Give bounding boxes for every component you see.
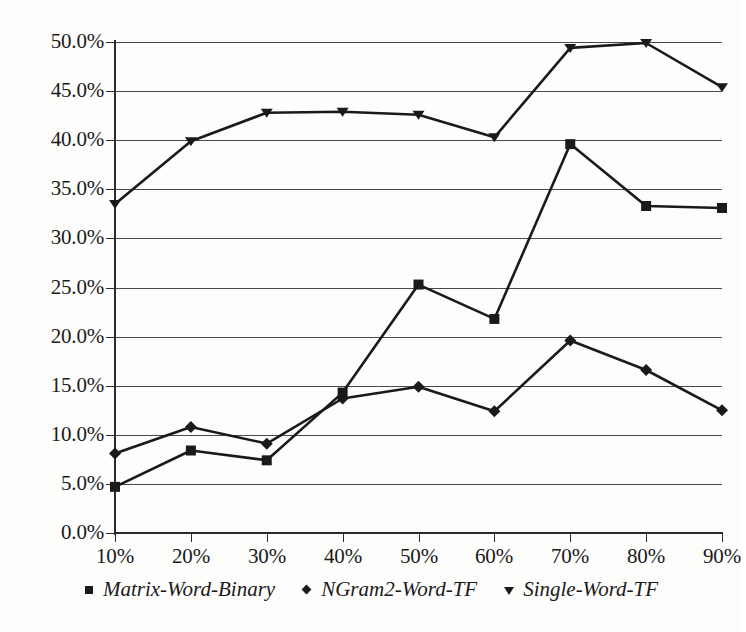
data-point-marker xyxy=(186,446,196,456)
data-point-marker xyxy=(109,200,121,209)
data-point-marker xyxy=(641,201,651,211)
legend-item: Single-Word-TF xyxy=(503,578,658,600)
diamond-icon xyxy=(301,583,313,595)
series-line xyxy=(115,144,722,487)
series-matrix-word-binary xyxy=(110,139,727,492)
square-icon xyxy=(83,583,95,595)
legend-item: NGram2-Word-TF xyxy=(301,578,477,600)
data-point-marker xyxy=(716,404,728,416)
data-point-marker xyxy=(488,133,500,142)
legend-item-label: NGram2-Word-TF xyxy=(321,578,477,600)
data-point-marker xyxy=(716,83,728,92)
data-point-marker xyxy=(109,447,121,459)
data-point-marker xyxy=(110,482,120,492)
series-line xyxy=(115,43,722,204)
series-single-word-tf xyxy=(109,39,728,209)
data-point-marker xyxy=(413,381,425,393)
legend-item-label: Single-Word-TF xyxy=(523,578,658,600)
legend-item: Matrix-Word-Binary xyxy=(83,578,275,600)
data-point-marker xyxy=(717,203,727,213)
series-line xyxy=(115,341,722,454)
data-point-marker xyxy=(640,364,652,376)
data-point-marker xyxy=(261,438,273,450)
data-point-marker xyxy=(489,314,499,324)
data-point-marker xyxy=(414,280,424,290)
data-point-marker xyxy=(185,421,197,433)
legend-item-label: Matrix-Word-Binary xyxy=(103,578,275,600)
data-point-marker xyxy=(565,139,575,149)
triangle-down-icon xyxy=(503,583,515,595)
series-ngram2-word-tf xyxy=(109,335,728,460)
chart-legend: Matrix-Word-BinaryNGram2-Word-TFSingle-W… xyxy=(0,578,741,600)
data-point-marker xyxy=(262,455,272,465)
